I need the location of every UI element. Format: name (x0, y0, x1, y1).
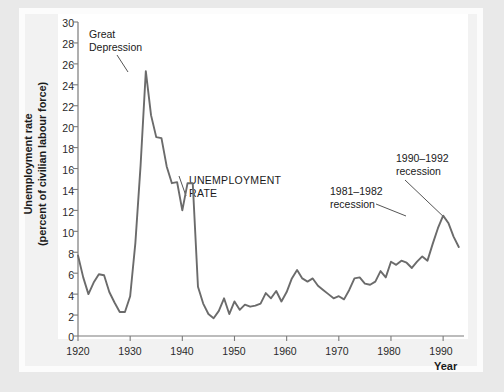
y-ticks-group (73, 22, 78, 336)
leader-line-great-depression (117, 55, 128, 72)
leader-line-recession-1981-1982 (376, 204, 406, 216)
axes-group (78, 22, 464, 336)
leader-line-recession-1990-1992 (405, 180, 447, 220)
x-ticks-group (78, 336, 443, 341)
unemployment-rate-line (78, 71, 459, 318)
leader-lines-group (117, 55, 447, 220)
chart-svg-layer (0, 0, 504, 392)
figure-container: Unemployment rate (percent of civilian l… (0, 0, 504, 392)
